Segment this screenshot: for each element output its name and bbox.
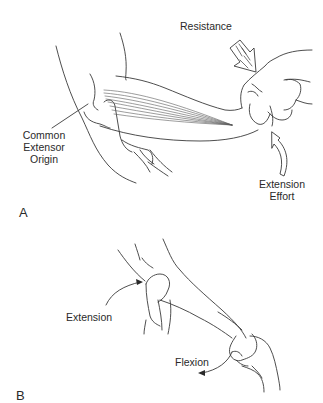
patient-fist-knuckles <box>284 79 301 110</box>
examiner-hand-lower <box>122 140 153 164</box>
patient-thumb <box>248 84 262 96</box>
resistance-label: Resistance <box>180 20 232 32</box>
origin-leader-line <box>52 104 88 128</box>
arm-upper-outline <box>118 250 145 281</box>
resistance-arrow-icon <box>230 40 256 72</box>
elbow-lower-outline <box>84 112 110 128</box>
origin-label-line-2: Extensor <box>14 141 74 153</box>
flexion-arrowhead-icon <box>198 370 205 376</box>
forearm-top-contour <box>116 76 242 110</box>
origin-label-line-1: Common <box>14 129 74 141</box>
panel-a-letter: A <box>19 206 28 220</box>
arm-crease-1 <box>135 244 140 260</box>
extension-arrow-line <box>106 282 140 305</box>
examiner-thumb <box>104 100 132 152</box>
common-extensor-origin-label: Common Extensor Origin <box>14 129 74 165</box>
flexion-label: Flexion <box>175 356 209 368</box>
arm-crease-2 <box>142 258 153 268</box>
extension-effort-arrow-icon <box>272 132 287 176</box>
examiner-wrist-b-2 <box>252 366 262 378</box>
extension-effort-label: Extension Effort <box>252 178 312 202</box>
effort-label-line-1: Extension <box>252 178 312 190</box>
origin-label-line-3: Origin <box>14 153 74 165</box>
panel-a-drawing <box>52 33 312 183</box>
effort-label-line-2: Effort <box>252 190 312 202</box>
examiner-hand-b-right <box>250 336 280 390</box>
patient-fist-b <box>229 334 256 361</box>
extension-arrowhead-icon <box>136 279 143 285</box>
examiner-forearm-lower <box>150 150 172 172</box>
examiner-hand-b-lower <box>144 284 171 334</box>
examiner-wrist-b <box>242 366 264 392</box>
panel-b-drawing <box>106 239 280 392</box>
panel-b-letter: B <box>16 389 25 403</box>
arm-top-outline <box>163 239 246 338</box>
elbow-outline <box>90 74 98 110</box>
extensor-muscle-fibers <box>104 90 232 125</box>
examiner-finger-lines <box>134 150 168 176</box>
examiner-hand-b <box>146 274 170 302</box>
upper-arm-outline <box>120 33 126 80</box>
forearm-bottom-contour <box>100 126 258 141</box>
anatomical-figure: Resistance Common Extensor Origin Extens… <box>0 0 323 403</box>
extension-label: Extension <box>66 311 112 323</box>
